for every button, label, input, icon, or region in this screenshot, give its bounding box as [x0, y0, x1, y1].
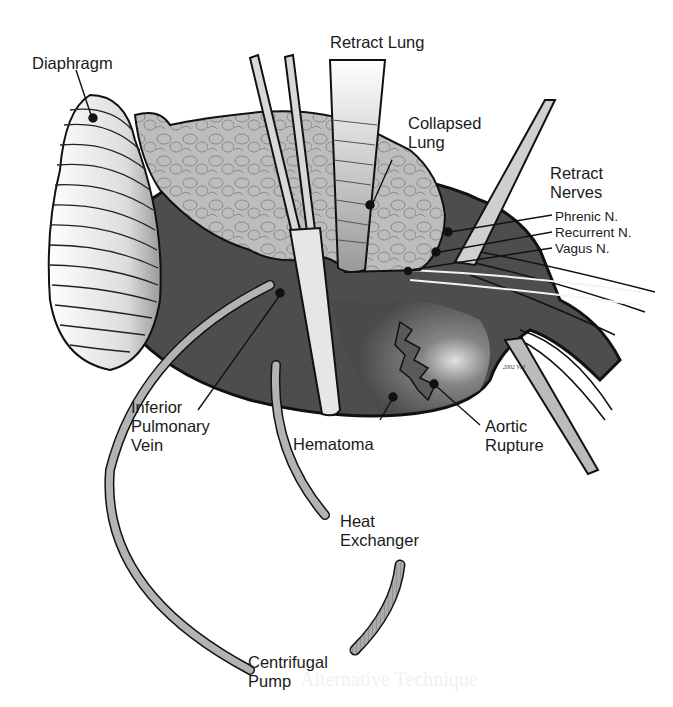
label-aortic-rupture: Aortic Rupture	[485, 417, 544, 455]
label-hematoma: Hematoma	[293, 435, 374, 454]
label-retract-lung: Retract Lung	[330, 33, 424, 52]
label-centrifugal-pump: Centrifugal Pump	[248, 653, 328, 691]
label-retract-nerves: Retract Nerves	[550, 164, 603, 202]
label-phrenic-nerve: Phrenic N.	[555, 209, 618, 225]
label-heat-exchanger: Heat Exchanger	[340, 512, 419, 550]
label-inferior-pulmonary-vein: Inferior Pulmonary Vein	[131, 398, 210, 455]
label-recurrent-nerve: Recurrent N.	[555, 225, 632, 241]
artist-signature: 2002 Vbf	[503, 364, 525, 370]
label-vagus-nerve: Vagus N.	[555, 241, 610, 257]
label-diaphragm: Diaphragm	[32, 54, 113, 73]
surgical-illustration	[0, 0, 673, 707]
label-collapsed-lung: Collapsed Lung	[408, 114, 481, 152]
